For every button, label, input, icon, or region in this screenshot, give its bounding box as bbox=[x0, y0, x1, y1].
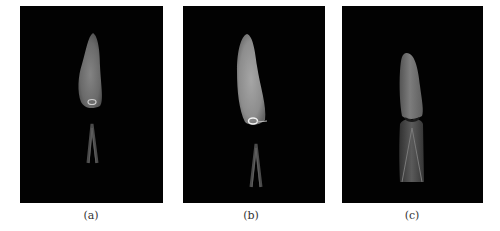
panel-c-image bbox=[342, 6, 483, 203]
panel-c-caption: (c) bbox=[382, 209, 442, 222]
flame-b-graphic bbox=[183, 6, 325, 203]
panel-b-image bbox=[183, 6, 325, 203]
panel-a-image bbox=[20, 6, 163, 203]
panel-a-caption: (a) bbox=[61, 209, 121, 222]
flame-a-graphic bbox=[20, 6, 163, 203]
panel-b-caption: (b) bbox=[221, 209, 281, 222]
flame-c-graphic bbox=[342, 6, 483, 203]
